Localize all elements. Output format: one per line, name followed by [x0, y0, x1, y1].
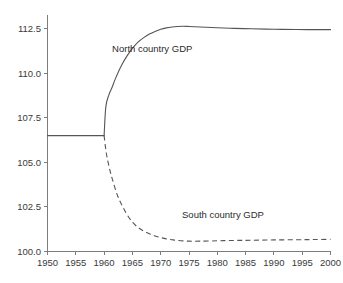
y-tick-label: 102.5 [17, 201, 41, 212]
x-tick-label: 1965 [122, 257, 143, 268]
x-tick-label: 1995 [292, 257, 313, 268]
x-tick-label: 1985 [235, 257, 256, 268]
gdp-line-chart-figure: 100.0102.5105.0107.5110.0112.5 195019551… [0, 0, 343, 283]
y-axis: 100.0102.5105.0107.5110.0112.5 [17, 15, 47, 257]
y-axis-tick-labels: 100.0102.5105.0107.5110.0112.5 [17, 23, 41, 257]
x-tick-label: 1960 [94, 257, 115, 268]
y-tick-label: 105.0 [17, 157, 41, 168]
series-line-south-country-gdp [104, 136, 330, 242]
annotation-north-country-gdp: North country GDP [112, 43, 192, 54]
x-axis: 1950195519601965197019751980198519901995… [37, 252, 341, 268]
y-tick-label: 110.0 [18, 68, 41, 79]
chart-canvas: 100.0102.5105.0107.5110.0112.5 195019551… [0, 0, 343, 283]
x-tick-label: 1950 [37, 257, 58, 268]
annotation-south-country-gdp: South country GDP [182, 209, 264, 220]
x-tick-label: 1970 [150, 257, 171, 268]
y-tick-label: 100.0 [17, 246, 41, 257]
x-tick-label: 1990 [263, 257, 284, 268]
x-axis-tick-marks [48, 252, 331, 256]
x-tick-label: 1975 [178, 257, 199, 268]
x-tick-label: 1955 [65, 257, 86, 268]
y-axis-tick-marks [44, 29, 48, 252]
y-tick-label: 107.5 [17, 112, 41, 123]
x-tick-label: 1980 [207, 257, 228, 268]
series-annotations-group: North country GDPSouth country GDP [112, 43, 264, 220]
x-tick-label: 2000 [320, 257, 341, 268]
x-axis-tick-labels: 1950195519601965197019751980198519901995… [37, 257, 341, 268]
y-tick-label: 112.5 [18, 23, 41, 34]
